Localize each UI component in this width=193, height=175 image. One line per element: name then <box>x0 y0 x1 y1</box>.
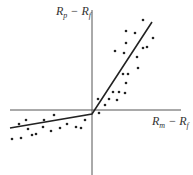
x-label-sub2: f <box>187 121 189 130</box>
data-point <box>35 133 38 136</box>
x-label-main2: R <box>179 114 186 128</box>
data-point <box>114 50 117 53</box>
data-point <box>27 128 30 131</box>
data-point <box>20 137 23 140</box>
data-point <box>134 32 137 35</box>
data-point <box>142 19 145 22</box>
data-point <box>97 98 100 101</box>
data-point <box>53 114 56 117</box>
axes <box>10 10 181 175</box>
data-point <box>127 73 130 76</box>
data-point <box>137 67 140 70</box>
fit-line <box>10 22 152 128</box>
y-label-main2: R <box>81 4 88 18</box>
data-point <box>142 47 145 50</box>
data-point <box>146 46 149 49</box>
data-point <box>66 123 69 126</box>
y-label-sep: − <box>67 4 81 18</box>
data-point <box>122 73 125 76</box>
data-point <box>125 30 128 33</box>
data-point <box>31 134 34 137</box>
data-point <box>59 127 62 130</box>
y-axis-label: Rp − Rf <box>56 4 91 20</box>
x-axis-label: Rm − Rf <box>152 114 189 130</box>
y-label-sub2: f <box>89 11 91 20</box>
data-point <box>125 82 128 85</box>
scatter-chart <box>0 0 193 175</box>
data-point <box>125 42 128 45</box>
data-point <box>136 56 139 59</box>
data-point <box>80 127 83 130</box>
data-point <box>108 98 111 101</box>
x-label-sep: − <box>165 114 179 128</box>
data-point <box>18 123 21 126</box>
data-point <box>123 52 126 55</box>
data-point <box>84 119 87 122</box>
data-point <box>112 91 115 94</box>
data-point <box>42 126 45 129</box>
data-point <box>43 119 46 122</box>
data-point <box>25 119 28 122</box>
data-point <box>75 126 78 129</box>
data-point <box>104 104 107 107</box>
data-point <box>116 99 119 102</box>
data-point <box>11 138 14 141</box>
data-point <box>50 130 53 133</box>
data-points <box>11 19 155 141</box>
data-point <box>98 112 101 115</box>
data-point <box>124 92 127 95</box>
data-point <box>152 37 155 40</box>
data-point <box>118 91 121 94</box>
